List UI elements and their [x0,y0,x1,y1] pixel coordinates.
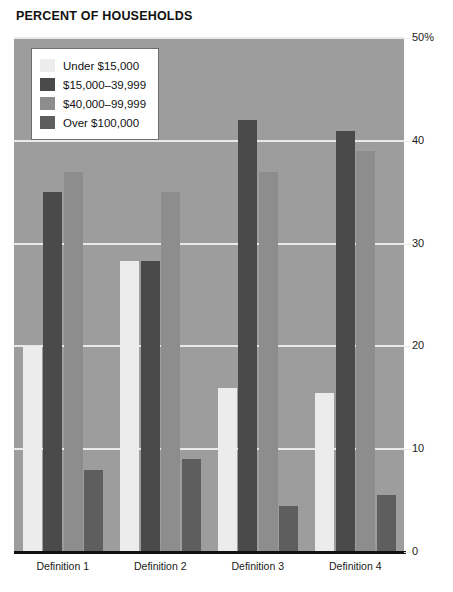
bar-chart-figure: PERCENT OF HOUSEHOLDS 01020304050% Defin… [0,0,453,592]
y-tick-mark [404,552,411,553]
bar [377,495,396,552]
bar [182,459,201,552]
x-axis-label-4: Definition 4 [307,560,405,572]
bar [336,131,355,552]
legend-swatch-icon [40,97,55,110]
gridline-50 [14,37,404,39]
y-axis-label: 0 [412,545,418,557]
bar [259,172,278,552]
y-tick-mark [404,346,411,347]
y-axis-label: 40 [412,134,424,146]
bar [84,470,103,552]
y-tick-mark [404,449,411,450]
bar [279,506,298,552]
legend-item-label: Under $15,000 [63,60,139,72]
legend-item[interactable]: Under $15,000 [40,56,146,75]
legend-swatch-icon [40,59,55,72]
legend-swatch-icon [40,78,55,91]
legend-swatch-icon [40,116,55,129]
bar [218,388,237,552]
bar [238,120,257,552]
legend-item[interactable]: Over $100,000 [40,113,146,132]
legend-item-label: $15,000–39,999 [63,79,146,91]
bar [120,261,139,552]
bar [315,393,334,552]
legend-item-label: Over $100,000 [63,117,139,129]
chart-title: PERCENT OF HOUSEHOLDS [16,9,192,23]
bar [161,192,180,552]
x-axis-line [14,551,406,554]
legend-item[interactable]: $40,000–99,999 [40,94,146,113]
bar [141,261,160,552]
x-axis-label-2: Definition 2 [112,560,210,572]
bar [64,172,83,552]
y-axis-label: 20 [412,339,424,351]
x-axis-label-3: Definition 3 [209,560,307,572]
y-axis-label: 30 [412,237,424,249]
y-tick-mark [404,244,411,245]
y-tick-mark [404,38,411,39]
bar [23,346,42,552]
y-axis-label: 50% [412,31,434,43]
y-axis-label: 10 [412,442,424,454]
chart-legend: Under $15,000$15,000–39,999$40,000–99,99… [31,48,159,140]
legend-item-label: $40,000–99,999 [63,98,146,110]
y-tick-mark [404,141,411,142]
legend-item[interactable]: $15,000–39,999 [40,75,146,94]
bar [43,192,62,552]
bar [356,151,375,552]
x-axis-label-1: Definition 1 [14,560,112,572]
